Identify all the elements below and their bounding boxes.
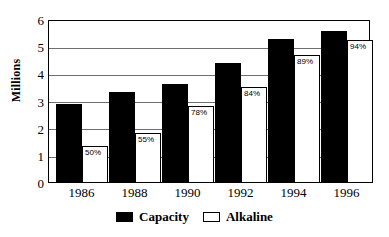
bar-group-1996: 94% [321,20,372,183]
x-tick-label-1988: 1988 [109,186,160,199]
bar-chart: Millions 6 5 4 3 2 1 0 50% 55% [0,0,389,237]
bar-capacity-1990[interactable] [162,84,188,183]
bar-label-alkaline-1992: 84% [244,90,260,98]
x-tick-label-1996: 1996 [321,186,372,199]
bar-label-alkaline-1990: 78% [191,109,207,117]
y-tick-label-1: 1 [30,150,44,163]
y-tick-label-2: 2 [30,123,44,136]
y-tick-label-4: 4 [30,68,44,81]
bar-alkaline-1994[interactable]: 89% [294,55,320,183]
x-tick-label-1994: 1994 [268,186,319,199]
bar-label-alkaline-1986: 50% [85,149,101,157]
bar-capacity-1988[interactable] [109,92,135,183]
hollow-white-swatch-icon [203,212,220,222]
legend-entry-capacity[interactable]: Capacity [116,210,189,223]
y-tick-label-3: 3 [30,96,44,109]
bar-label-alkaline-1994: 89% [297,58,313,66]
y-tick-label-5: 5 [30,41,44,54]
bar-alkaline-1988[interactable]: 55% [135,133,161,183]
bar-capacity-1994[interactable] [268,39,294,183]
bar-group-1990: 78% [162,20,213,183]
bar-group-1994: 89% [268,20,319,183]
bar-alkaline-1986[interactable]: 50% [82,146,108,183]
legend-entry-alkaline[interactable]: Alkaline [203,210,273,223]
x-tick-label-1992: 1992 [215,186,266,199]
bar-capacity-1992[interactable] [215,63,241,183]
x-tick-label-1990: 1990 [162,186,213,199]
bar-group-1986: 50% [56,20,107,183]
bar-alkaline-1992[interactable]: 84% [241,87,267,184]
y-tick-label-6: 6 [30,14,44,27]
bars-layer: 50% 55% 78% 84% 89% [48,20,370,183]
bar-alkaline-1990[interactable]: 78% [188,106,214,183]
x-tick-label-1986: 1986 [56,186,107,199]
legend-label-alkaline: Alkaline [226,210,273,223]
legend-label-capacity: Capacity [139,210,189,223]
y-tick-label-0: 0 [30,177,44,190]
bar-group-1992: 84% [215,20,266,183]
bar-label-alkaline-1988: 55% [138,136,154,144]
bar-label-alkaline-1996: 94% [350,43,366,51]
bar-group-1988: 55% [109,20,160,183]
bar-alkaline-1996[interactable]: 94% [347,40,373,183]
bar-capacity-1986[interactable] [56,104,82,183]
solid-black-swatch-icon [116,212,133,222]
y-axis-title: Millions [9,41,24,121]
bar-capacity-1996[interactable] [321,31,347,183]
chart-legend: Capacity Alkaline [0,210,389,223]
